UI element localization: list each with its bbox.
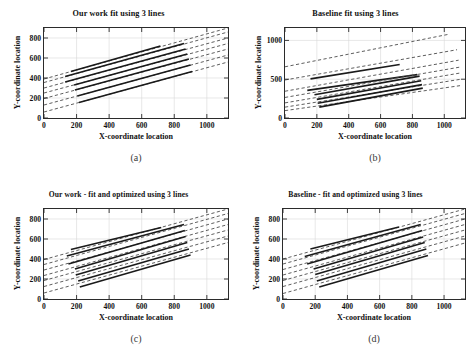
panel-d-xtick-3: 600 (374, 302, 385, 311)
panel-b-xtick-1: 200 (311, 121, 322, 130)
panel-c-title: Our work - fit and optimized using 3 lin… (0, 190, 237, 199)
panel-c: Our work - fit and optimized using 3 lin… (0, 181, 237, 361)
panel-a-ytick-2: 400 (30, 74, 41, 83)
panel-a: Our work fit using 3 lines Y-coordinate … (0, 0, 237, 180)
panel-b-xtick-4: 800 (407, 121, 418, 130)
panel-b-xlabel: X-coordinate location (284, 132, 466, 141)
panel-c-canvas (44, 209, 228, 299)
series-line-6-fit (317, 249, 427, 281)
panel-c-caption: (c) (106, 333, 166, 344)
panel-d-ytick-4: 800 (269, 215, 280, 224)
panel-a-caption: (a) (106, 152, 166, 163)
panel-d-xtick-4: 800 (406, 302, 417, 311)
panel-a-title: Our work fit using 3 lines (0, 9, 237, 18)
panel-b-plot-area (284, 27, 466, 119)
panel-a-canvas (44, 28, 228, 118)
panel-c-xlabel: X-coordinate location (43, 313, 229, 322)
panel-d-xtick-0: 0 (281, 302, 285, 311)
series-line-6-fit (78, 249, 189, 281)
panel-b-xtick-5: 1000 (437, 121, 452, 130)
panel-d-xtick-1: 200 (310, 302, 321, 311)
panel-c-ytick-0: 0 (37, 295, 41, 304)
panel-a-ylabel: Y-coordinate location (13, 13, 22, 133)
panel-d-ylabel: Y-coordinate location (252, 194, 261, 314)
panel-b-xtick-3: 600 (375, 121, 386, 130)
series-line-4 (283, 225, 465, 276)
panel-a-ytick-3: 600 (30, 54, 41, 63)
panel-d-xtick-2: 400 (342, 302, 353, 311)
series-line-2-fit (67, 225, 184, 257)
series-line-7-fit (80, 255, 191, 287)
panel-b-title: Baseline fit using 3 lines (237, 9, 474, 18)
panel-b-ytick-0: 0 (278, 114, 282, 123)
panel-a-xtick-3: 600 (136, 121, 147, 130)
panel-a-xtick-0: 0 (42, 121, 46, 130)
panel-b-ylabel: Y-coordinate location (254, 13, 263, 133)
panel-d-caption: (d) (344, 333, 404, 344)
panel-b-ytick-2: 1000 (267, 36, 282, 45)
series-line-6-fit (77, 65, 190, 96)
tick-marks (285, 28, 465, 118)
panel-c-xtick-0: 0 (42, 302, 46, 311)
panel-d-ytick-0: 0 (276, 295, 280, 304)
series-line-5-fit (317, 81, 421, 100)
panel-d-xtick-5: 1000 (436, 302, 451, 311)
panel-c-ylabel: Y-coordinate location (13, 194, 22, 314)
panel-c-xtick-3: 600 (136, 302, 147, 311)
panel-a-ytick-0: 0 (37, 114, 41, 123)
panel-c-xtick-4: 800 (169, 302, 180, 311)
panel-d-xlabel: X-coordinate location (282, 313, 466, 322)
panel-d-ytick-2: 400 (269, 255, 280, 264)
panel-c-ytick-2: 400 (30, 255, 41, 264)
panel-c-ytick-3: 600 (30, 235, 41, 244)
panel-d-title: Baseline - fit and optimized using 3 lin… (237, 190, 474, 199)
series-line-1-fit (71, 228, 161, 250)
panel-c-plot-area (43, 208, 229, 300)
series-line-4-fit (314, 237, 424, 269)
panel-d: Baseline - fit and optimized using 3 lin… (237, 181, 474, 361)
panel-a-ytick-4: 800 (30, 34, 41, 43)
panel-c-xtick-2: 400 (103, 302, 114, 311)
panel-d-plot-area (282, 208, 466, 300)
panel-b-ytick-1: 500 (271, 75, 282, 84)
panel-c-xtick-5: 1000 (199, 302, 214, 311)
panel-b-caption: (b) (345, 152, 405, 163)
panel-a-xtick-5: 1000 (199, 121, 214, 130)
panel-b-canvas (285, 28, 465, 118)
panel-a-plot-area (43, 27, 229, 119)
panel-b-xtick-2: 400 (343, 121, 354, 130)
series-line-2-fit (310, 64, 399, 78)
series-line-4-fit (75, 237, 186, 270)
panel-a-xtick-2: 400 (103, 121, 114, 130)
panel-d-ytick-1: 200 (269, 275, 280, 284)
series-line-1-fit (310, 227, 399, 249)
panel-b-xtick-0: 0 (283, 121, 287, 130)
panel-a-xtick-4: 800 (169, 121, 180, 130)
panel-c-ytick-4: 800 (30, 215, 41, 224)
panel-d-canvas (283, 209, 465, 299)
panel-c-ytick-1: 200 (30, 275, 41, 284)
panel-d-ytick-3: 600 (269, 235, 280, 244)
panel-b: Baseline fit using 3 lines Y-coordinate … (237, 0, 474, 180)
series-line-1 (285, 34, 449, 67)
panel-a-xtick-1: 200 (71, 121, 82, 130)
panel-c-xtick-1: 200 (71, 302, 82, 311)
series-line-3 (285, 60, 459, 91)
grid-lines (285, 28, 465, 118)
panel-a-ytick-1: 200 (30, 94, 41, 103)
series-line-5 (285, 73, 460, 103)
panel-a-xlabel: X-coordinate location (43, 132, 229, 141)
series-line-2-fit (305, 225, 421, 257)
